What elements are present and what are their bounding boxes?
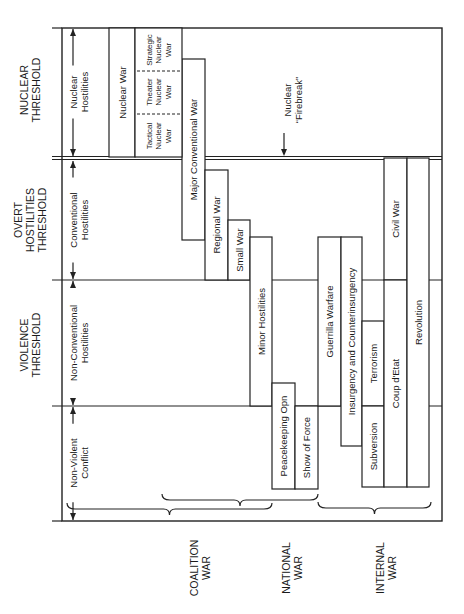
terrorism: Terrorism — [368, 344, 379, 384]
strategic-nuclear-war-label: Nuclear — [154, 36, 163, 64]
war-categories: COALITIONWARNATIONALWARINTERNALWAR — [188, 540, 398, 597]
coup-detat-label: Coup d'Etat — [390, 358, 401, 408]
range-label-nuclear-hostilities-label: Hostilities — [79, 71, 90, 112]
arrow-up-icon — [70, 29, 76, 36]
threshold-label-violence: VIOLENCETHRESHOLD — [18, 312, 42, 377]
minor-hostilities-label: Minor Hostilities — [256, 288, 267, 355]
arrow-up-icon — [70, 407, 76, 414]
minor-hostilities: Minor Hostilities — [256, 288, 267, 355]
internal-war-brace — [318, 502, 431, 514]
range-label-non-violent-conflict-label: Non-Violent — [68, 438, 79, 488]
guerrilla-warfare: Guerrilla Warfare — [324, 286, 335, 358]
nuclear-war-label: Nuclear War — [117, 66, 128, 118]
category-internal-war: INTERNALWAR — [374, 542, 398, 594]
firebreak-label-label: Nuclear — [282, 84, 293, 117]
range-label-non-violent-conflict-label: Conflict — [79, 447, 90, 479]
range-nuclear-hostilities: NuclearHostilities — [68, 29, 91, 156]
arrow-down-icon — [70, 513, 76, 520]
box-small-war: Small War — [228, 220, 250, 280]
range-label-conventional-hostilities: ConventionalHostilities — [68, 192, 91, 247]
small-war: Small War — [234, 228, 245, 271]
box-minor-hostilities: Minor Hostilities — [250, 237, 272, 406]
range-label-non-conventional-hostilities: Non-ConventionalHostilities — [68, 305, 91, 381]
threshold-label-violence-label: VIOLENCE — [18, 318, 30, 371]
threshold-label-violence-label: THRESHOLD — [30, 312, 42, 377]
show-of-force: Show of Force — [301, 417, 312, 478]
box-major-conventional-war: Major Conventional War — [182, 59, 205, 240]
national-war-brace — [162, 494, 318, 506]
threshold-label-overt-hostilities-label: HOSTILITIES — [24, 188, 36, 252]
arrow-down-icon — [70, 149, 76, 156]
category-coalition-war: COALITIONWAR — [188, 540, 212, 597]
nuclear-firebreak-annotation: Nuclear“Firebreak” — [281, 77, 304, 156]
box-civil-war: Civil War — [384, 158, 407, 280]
guerrilla-warfare-label: Guerrilla Warfare — [324, 286, 335, 358]
strategic-nuclear-war-label: Strategic — [145, 34, 154, 66]
box-coup-detat: Coup d'Etat — [384, 280, 407, 487]
peacekeeping-opn-label: Peacekeeping Opn — [278, 396, 289, 477]
threshold-label-overt-hostilities-label: OVERT — [12, 201, 24, 238]
show-of-force-label: Show of Force — [301, 417, 312, 478]
small-war-label: Small War — [234, 228, 245, 271]
range-label-conventional-hostilities-label: Hostilities — [79, 199, 90, 240]
revolution-label: Revolution — [413, 300, 424, 345]
category-coalition-war-label: COALITION — [188, 540, 200, 597]
arrow-up-icon — [70, 281, 76, 288]
civil-war: Civil War — [390, 200, 401, 238]
threshold-label-nuclear-label: THRESHOLD — [30, 57, 42, 122]
range-label-non-violent-conflict: Non-ViolentConflict — [68, 438, 91, 488]
tactical-nuclear-war-label: War — [164, 128, 173, 143]
coup-detat: Coup d'Etat — [390, 358, 401, 408]
range-label-nuclear-hostilities: NuclearHostilities — [68, 71, 91, 112]
tactical-nuclear-war-label: Tactical — [145, 122, 154, 149]
category-braces — [67, 494, 431, 515]
nuclear-war-subdivisions: StrategicNuclearWarTheaterNuclearWarTact… — [135, 28, 182, 157]
nuclear-war: Nuclear War — [117, 66, 128, 118]
terrorism-label: Terrorism — [368, 344, 379, 384]
box-terrorism: Terrorism — [362, 321, 384, 406]
civil-war-label: Civil War — [390, 200, 401, 238]
arrow-down-icon — [70, 272, 76, 279]
box-subversion: Subversion — [362, 406, 384, 487]
tactical-nuclear-war-label: Nuclear — [154, 122, 163, 150]
major-conventional-war-label: Major Conventional War — [188, 99, 199, 201]
insurgency-counterinsurgency: Insurgency and Counterinsurgency — [346, 268, 357, 416]
theater-nuclear-war-label: Nuclear — [154, 78, 163, 106]
range-non-violent-conflict: Non-ViolentConflict — [68, 407, 91, 520]
arrow-down-icon — [281, 149, 287, 156]
range-non-conventional-hostilities: Non-ConventionalHostilities — [68, 281, 91, 405]
threshold-label-overt-hostilities: OVERTHOSTILITIESTHRESHOLD — [12, 187, 48, 252]
coalition-war-brace — [67, 503, 272, 515]
arrow-up-icon — [70, 161, 76, 168]
conflict-spectrum-diagram: NUCLEARTHRESHOLDOVERTHOSTILITIESTHRESHOL… — [0, 0, 464, 614]
arrow-down-icon — [70, 398, 76, 405]
major-conventional-war: Major Conventional War — [188, 99, 199, 201]
revolution: Revolution — [413, 300, 424, 345]
category-coalition-war-label: WAR — [200, 556, 212, 581]
box-revolution: Revolution — [407, 158, 429, 487]
category-internal-war-label: INTERNAL — [374, 542, 386, 594]
peacekeeping-opn: Peacekeeping Opn — [278, 396, 289, 477]
range-label-conventional-hostilities-label: Conventional — [68, 192, 79, 247]
threshold-label-nuclear-label: NUCLEAR — [18, 64, 30, 115]
range-label-non-conventional-hostilities-label: Non-Conventional — [68, 305, 79, 381]
hostility-ranges: NuclearHostilitiesConventionalHostilitie… — [68, 29, 91, 520]
box-peacekeeping-opn: Peacekeeping Opn — [272, 383, 295, 489]
theater-nuclear-war-label: Theater — [145, 78, 154, 106]
category-national-war-label: NATIONAL — [280, 542, 292, 594]
category-national-war-label: WAR — [292, 556, 304, 581]
box-insurgency-counterinsurgency: Insurgency and Counterinsurgency — [341, 237, 362, 446]
box-guerrilla-warfare: Guerrilla Warfare — [318, 237, 341, 406]
strategic-nuclear-war-label: War — [164, 42, 173, 57]
box-show-of-force: Show of Force — [295, 406, 318, 489]
threshold-label-nuclear: NUCLEARTHRESHOLD — [18, 57, 42, 122]
regional-war: Regional War — [211, 196, 222, 253]
category-national-war: NATIONALWAR — [280, 542, 304, 594]
box-nuclear-war: Nuclear War — [109, 28, 135, 157]
range-label-nuclear-hostilities-label: Nuclear — [68, 76, 79, 109]
regional-war-label: Regional War — [211, 196, 222, 253]
firebreak-label: Nuclear“Firebreak” — [282, 77, 304, 123]
theater-nuclear-war-label: War — [164, 84, 173, 99]
range-conventional-hostilities: ConventionalHostilities — [68, 161, 91, 279]
box-regional-war: Regional War — [205, 170, 228, 280]
